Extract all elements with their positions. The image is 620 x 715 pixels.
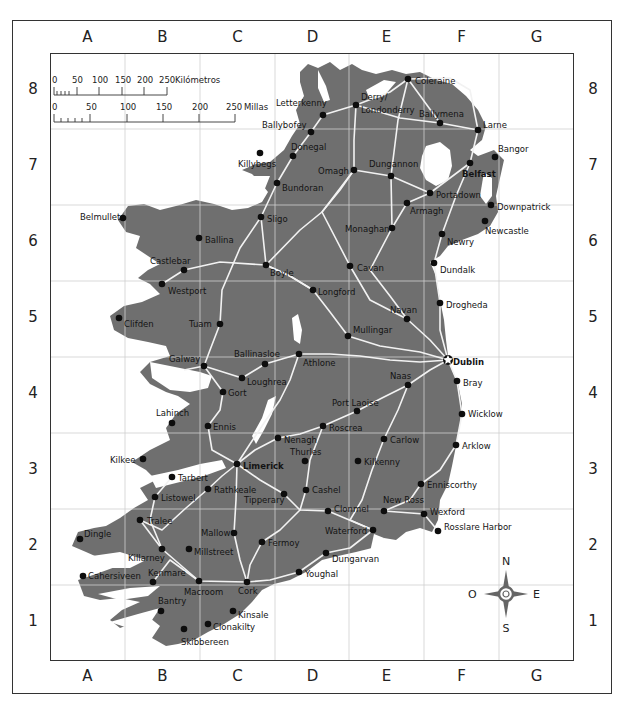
inner-frame xyxy=(50,53,574,661)
ireland-map: A B C D E F G A B C D E F G 8 7 6 5 4 3 … xyxy=(0,0,620,715)
